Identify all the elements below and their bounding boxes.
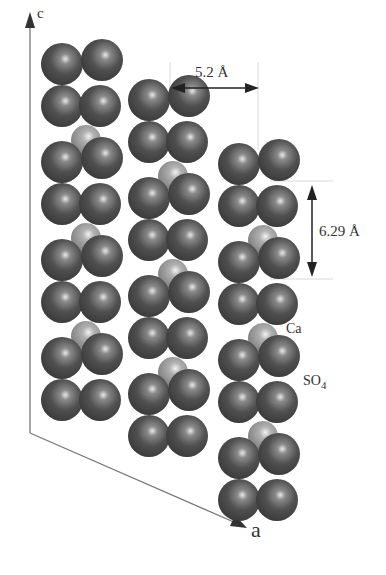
so4-sphere	[79, 281, 121, 323]
so4-sphere	[218, 143, 260, 185]
so4-sphere	[218, 241, 260, 283]
so4-sphere	[218, 479, 260, 521]
c-axis-arrowhead-icon	[25, 12, 35, 28]
so4-sphere	[41, 239, 83, 281]
so4-sphere	[258, 433, 300, 475]
so4-sphere	[166, 121, 208, 163]
so4-sphere	[41, 85, 83, 127]
so4-sphere	[256, 479, 298, 521]
crystal-structure-diagram: c a 5.2 Å 6.29 Å Ca SO4	[0, 0, 386, 575]
so4-sphere	[168, 173, 210, 215]
so4-sphere	[218, 185, 260, 227]
so4-sphere	[81, 235, 123, 277]
so4-sphere	[128, 415, 170, 457]
up-arrowhead-icon	[307, 185, 317, 200]
so4-sphere	[218, 381, 260, 423]
ca-label: Ca	[286, 321, 302, 336]
so4-sphere	[41, 281, 83, 323]
so4-sphere	[166, 415, 208, 457]
vertical-dimension: 6.29 Å	[307, 185, 360, 277]
so4-sphere	[81, 137, 123, 179]
so4-sphere	[81, 333, 123, 375]
so4-sphere	[166, 219, 208, 261]
horizontal-spacing-label: 5.2 Å	[195, 64, 229, 80]
so4-sphere	[41, 43, 83, 85]
so4-sphere	[256, 381, 298, 423]
so4-sphere	[128, 373, 170, 415]
so4-sphere	[41, 379, 83, 421]
so4-sphere	[41, 141, 83, 183]
so4-sphere	[258, 139, 300, 181]
right-arrowhead-icon	[245, 83, 259, 93]
so4-sphere	[168, 75, 210, 117]
sphere-columns	[41, 39, 300, 521]
so4-sphere	[218, 339, 260, 381]
so4-sphere	[128, 79, 170, 121]
so4-sphere	[128, 121, 170, 163]
so4-label: SO4	[303, 373, 327, 391]
so4-sphere	[256, 283, 298, 325]
so4-sphere	[256, 185, 298, 227]
so4-sphere	[166, 317, 208, 359]
so4-sphere	[79, 183, 121, 225]
so4-sphere	[218, 437, 260, 479]
so4-sphere	[81, 39, 123, 81]
c-axis-label: c	[37, 5, 44, 21]
vertical-spacing-label: 6.29 Å	[319, 223, 360, 239]
so4-sphere	[128, 275, 170, 317]
so4-sphere	[128, 219, 170, 261]
so4-sphere	[258, 237, 300, 279]
so4-sphere	[168, 369, 210, 411]
so4-sphere	[218, 283, 260, 325]
down-arrowhead-icon	[307, 262, 317, 277]
so4-sphere	[128, 177, 170, 219]
a-axis-label: a	[251, 517, 261, 542]
so4-sphere	[258, 335, 300, 377]
so4-sphere	[168, 271, 210, 313]
so4-sphere	[41, 337, 83, 379]
so4-sphere	[79, 379, 121, 421]
so4-sphere	[41, 183, 83, 225]
so4-sphere	[79, 85, 121, 127]
so4-sphere	[128, 317, 170, 359]
